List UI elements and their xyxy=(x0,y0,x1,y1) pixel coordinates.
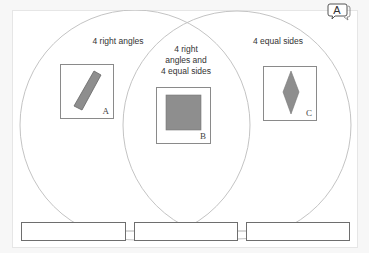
card-letter-a: A xyxy=(103,106,110,116)
shape-card-b[interactable]: B xyxy=(156,87,211,144)
overlap-region-label-line1: 4 right xyxy=(146,44,226,55)
answer-box-left[interactable] xyxy=(21,222,126,241)
shape-card-c[interactable]: C xyxy=(263,66,317,121)
speech-bubble-button[interactable]: A xyxy=(327,3,351,20)
card-letter-b: B xyxy=(200,131,206,141)
card-letter-c: C xyxy=(306,108,312,118)
overlap-region-label-line2: angles and xyxy=(146,55,226,66)
answer-box-middle[interactable] xyxy=(134,222,238,241)
right-region-label: 4 equal sides xyxy=(238,36,318,47)
overlap-region-label-line3: 4 equal sides xyxy=(146,66,226,77)
speech-bubble-letter: A xyxy=(327,4,347,16)
answer-box-right[interactable] xyxy=(246,222,350,241)
shape-card-a[interactable]: A xyxy=(60,64,114,119)
